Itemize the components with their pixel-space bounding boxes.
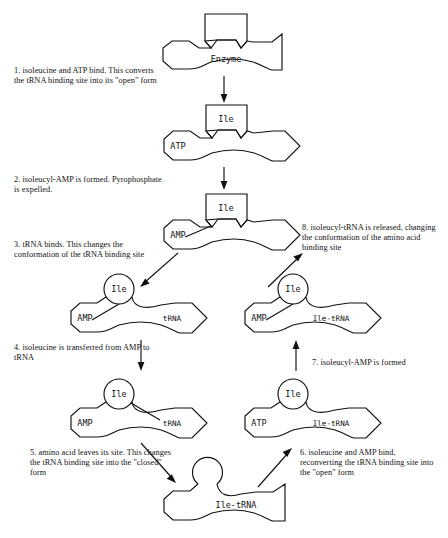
- step-label-2: 2. isoleucyl-AMP is formed. Pyrophosphat…: [14, 175, 164, 195]
- label-ile-trna: Ile-tRNA: [313, 419, 350, 428]
- label-amp: AMP: [77, 313, 92, 323]
- label-ile: Ile: [218, 203, 233, 213]
- arrow-step-1: [221, 76, 228, 103]
- amino-acid-site-empty-square: [205, 14, 247, 48]
- label-trna: tRNA: [163, 419, 182, 428]
- amino-acid-site-circle-empty: [193, 457, 223, 484]
- label-amp: AMP: [77, 418, 92, 428]
- label-ile-trna: Ile-tRNA: [313, 314, 350, 323]
- label-trna: tRNA: [163, 314, 182, 323]
- state-amp-ile-trna: Ile AMP Ile-tRNA: [245, 274, 381, 333]
- label-amp: AMP: [251, 313, 266, 323]
- state-atp-ile-trna: Ile ATP Ile-tRNA: [245, 379, 381, 438]
- label-ile: Ile: [218, 114, 233, 124]
- state-enzyme: Enzyme: [163, 14, 282, 70]
- diagram-page: Enzyme Ile ATP Ile AMP: [0, 0, 448, 538]
- step-label-1: 1. isoleucine and ATP bind. This convert…: [14, 66, 164, 86]
- state-ile-amp-trna: Ile AMP tRNA: [71, 274, 207, 333]
- arrow-step-8: [268, 253, 303, 287]
- bond-ile-amp: [92, 304, 119, 320]
- label-ile-trna: Ile-tRNA: [216, 500, 257, 510]
- arrow-step-2: [221, 167, 228, 190]
- step-label-8: 8. isoleucyl-tRNA is released, changing …: [302, 223, 442, 253]
- step-label-3: 3. tRNA binds. This changes the conforma…: [14, 240, 162, 260]
- step-label-6: 6. isoleucine and AMP bind, reconverting…: [300, 448, 440, 478]
- arrow-step-6: [258, 448, 292, 487]
- label-ile: Ile: [285, 284, 300, 294]
- state-ile-atp: Ile ATP: [164, 105, 300, 161]
- step-label-5: 5. amino acid leaves its site. This chan…: [30, 448, 175, 478]
- label-ile: Ile: [285, 389, 300, 399]
- label-amp: AMP: [170, 230, 185, 240]
- label-atp: ATP: [170, 141, 185, 151]
- label-enzyme: Enzyme: [211, 54, 242, 64]
- bond-ile-amp: [266, 304, 293, 320]
- state-ile-trna-bonded: Ile AMP tRNA: [71, 379, 207, 438]
- step-label-4: 4. isoleucine is transferred from AMP to…: [14, 343, 154, 363]
- step-label-7: 7. isoleucyl-AMP is formed: [312, 358, 447, 368]
- label-atp: ATP: [251, 418, 266, 428]
- arrow-step-7: [293, 340, 300, 371]
- label-ile: Ile: [111, 284, 126, 294]
- enzyme-body: [163, 34, 282, 70]
- state-ile-trna-released: Ile-tRNA: [164, 457, 285, 521]
- bond-ile-amp: [185, 226, 211, 237]
- label-ile: Ile: [111, 389, 126, 399]
- state-ile-amp: Ile AMP: [164, 194, 300, 250]
